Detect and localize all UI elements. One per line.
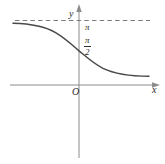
x-axis-label: x	[152, 85, 156, 95]
origin-label: O	[72, 87, 79, 97]
y-tick-label-pi: π	[85, 23, 90, 32]
function-graph-figure: y x O π π 2	[0, 0, 165, 164]
curve-arccot	[13, 23, 149, 76]
y-axis-label: y	[69, 9, 73, 19]
fraction-denominator: 2	[84, 48, 91, 57]
y-axis-arrowhead	[76, 4, 81, 12]
x-axis	[10, 82, 160, 87]
fraction-numerator: π	[84, 36, 91, 45]
y-axis	[76, 4, 81, 158]
y-tick-label-pi-over-2: π 2	[84, 36, 91, 58]
plot-canvas	[0, 0, 165, 164]
